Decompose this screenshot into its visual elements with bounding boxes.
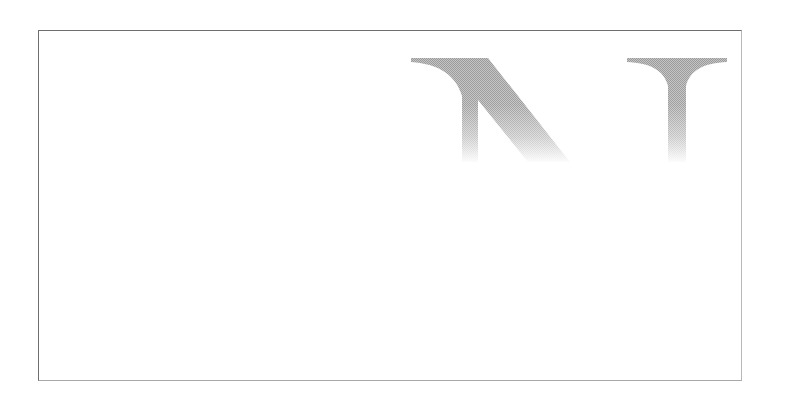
bordered-frame <box>38 30 742 381</box>
logo-text: NT <box>0 0 1 1</box>
